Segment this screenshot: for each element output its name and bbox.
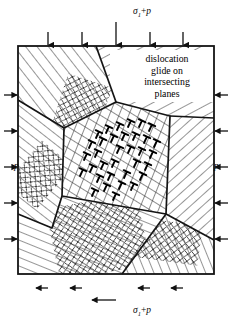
pressure-symbol: p [146, 305, 151, 315]
caption-line-4: planes [114, 88, 220, 100]
dislocation-caption: dislocation glide on intersecting planes [114, 53, 220, 99]
caption-line-1: dislocation [114, 53, 220, 65]
figure-polycrystal-dislocation: σ1+p σ1+p p p dislocation glide on inter… [0, 0, 232, 333]
top-stress-label: σ1+p [133, 6, 151, 18]
caption-line-3: intersecting [114, 76, 220, 88]
pressure-symbol: p [146, 6, 151, 16]
caption-line-2: glide on [114, 65, 220, 77]
bottom-stress-label: σ1+p [133, 305, 151, 317]
diagram-canvas [0, 0, 232, 333]
right-pressure-label: p [214, 161, 219, 171]
load-arrows-bottom [36, 288, 183, 300]
load-arrows-top [48, 22, 183, 45]
left-pressure-label: p [14, 161, 19, 171]
